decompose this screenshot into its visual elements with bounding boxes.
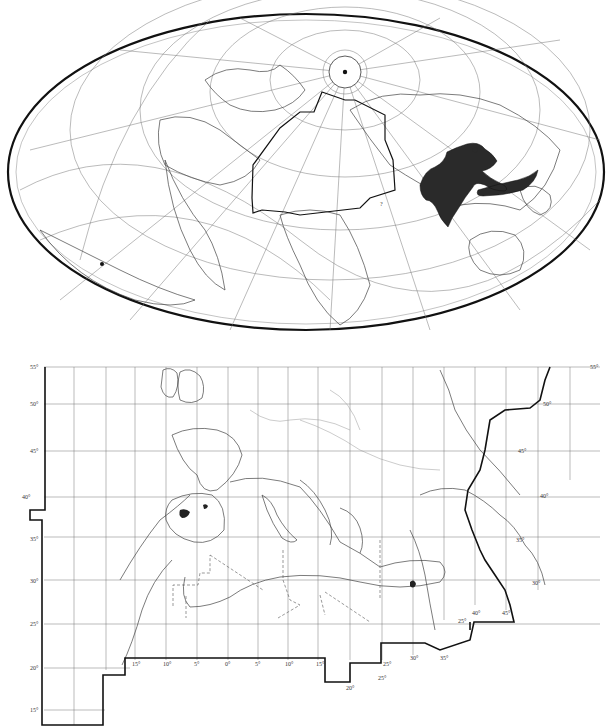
svg-text:45°: 45° (502, 610, 511, 616)
misc-labels: 25° (383, 661, 392, 667)
svg-text:0°: 0° (225, 661, 231, 667)
svg-text:45°: 45° (30, 448, 39, 454)
map-ellipse-frame (8, 14, 604, 330)
latitude-labels-right: 55° 50° 45° 40° 35° 30° 25° (458, 364, 599, 624)
latitude-labels-left: 55° 50° 45° 40° 35° 30° 25° 20° 15° (22, 364, 39, 713)
svg-text:15°: 15° (132, 661, 141, 667)
regional-map: 55° 50° 45° 40° 35° 30° 25° 20° 15° 55° … (0, 360, 612, 728)
svg-text:15°: 15° (316, 661, 325, 667)
svg-text:25°: 25° (458, 618, 467, 624)
lat-lon-grid (44, 367, 600, 725)
svg-text:35°: 35° (30, 536, 39, 542)
svg-text:15°: 15° (30, 707, 39, 713)
svg-text:55°: 55° (30, 364, 39, 370)
regional-map-panel: 55° 50° 45° 40° 35° 30° 25° 20° 15° 55° … (0, 360, 612, 728)
svg-text:25°: 25° (30, 621, 39, 627)
svg-text:10°: 10° (163, 661, 172, 667)
world-map: ? (0, 0, 612, 340)
question-mark-label: ? (380, 201, 383, 207)
svg-text:50°: 50° (30, 401, 39, 407)
svg-text:35°: 35° (516, 537, 525, 543)
study-area-frame (30, 367, 550, 725)
svg-text:30°: 30° (410, 655, 419, 661)
svg-text:40°: 40° (540, 493, 549, 499)
longitude-labels-bottom: 15° 10° 5° 0° 5° 10° 15° 20° 25° 30° 35° (132, 655, 449, 691)
international-borders (173, 540, 380, 622)
svg-text:40°: 40° (472, 610, 481, 616)
svg-text:45°: 45° (518, 448, 527, 454)
svg-text:5°: 5° (194, 661, 200, 667)
world-map-panel: ? (0, 0, 612, 340)
svg-text:10°: 10° (285, 661, 294, 667)
secondary-marker (100, 262, 104, 266)
svg-text:20°: 20° (346, 685, 355, 691)
svg-text:25°: 25° (378, 675, 387, 681)
svg-text:25°: 25° (383, 661, 392, 667)
svg-text:30°: 30° (532, 580, 541, 586)
svg-text:50°: 50° (543, 401, 552, 407)
svg-text:40°: 40° (22, 494, 31, 500)
svg-text:20°: 20° (30, 665, 39, 671)
svg-text:35°: 35° (440, 655, 449, 661)
svg-text:55°: 55° (590, 364, 599, 370)
svg-text:5°: 5° (255, 661, 261, 667)
pole-marker (343, 70, 347, 74)
svg-text:30°: 30° (30, 578, 39, 584)
longitude-labels-middle-east: 40° 45° (472, 610, 511, 616)
